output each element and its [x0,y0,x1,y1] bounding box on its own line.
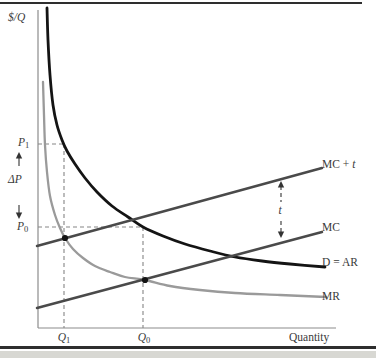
t-arrow-down-head [278,232,284,239]
demand-curve-label: D = AR [322,256,358,269]
delta-p-label: ΔP [8,173,22,186]
curve-d-ar [47,8,325,267]
intersection-dot [62,235,68,241]
p0-label: P0 [17,220,28,233]
mr-curve-label: MR [322,290,340,303]
t-arrow-up-head [278,181,284,188]
delta-p-down-arrow-head [16,213,22,220]
diagram-svg [0,0,376,358]
tax-t-label: t [278,204,281,217]
x-axis-label: Quantity [289,331,329,344]
intersection-dot [142,277,148,283]
delta-p-up-arrow-head [16,152,22,159]
bottom-border-rule [0,346,376,349]
p1-label: P1 [18,136,29,149]
mc-curve-label: MC [322,221,340,234]
mc-plus-t-curve-label: MC + t [322,158,355,171]
bottom-page-strip [0,351,376,358]
q1-tick-label: Q1 [58,331,71,344]
q0-tick-label: Q0 [138,331,151,344]
y-axis-label: $/Q [8,11,25,24]
textbook-figure: $/Q P1 ΔP P0 Q1 Q0 Quantity MC + t MC D … [0,0,376,358]
